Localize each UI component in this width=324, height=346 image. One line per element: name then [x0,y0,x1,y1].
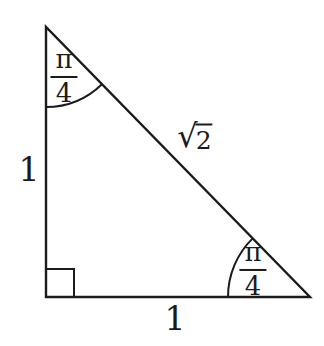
radical-sign: √ [177,120,197,152]
bottom-right-angle-denominator: 4 [239,271,266,300]
triangle-diagram: 1 1 √ 2 π 4 π 4 [0,0,324,346]
bottom-side-length-label: 1 [165,302,186,335]
left-side-length-label: 1 [19,153,40,186]
top-angle-denominator: 4 [50,78,77,107]
radicand: 2 [196,124,213,153]
hypotenuse-length-label: √ 2 [177,120,212,153]
right-angle-marker-icon [46,269,74,297]
bottom-right-angle-label: π 4 [239,239,266,299]
top-angle-numerator: π [50,46,77,78]
triangle-geometry [0,0,324,346]
top-angle-label: π 4 [50,46,77,106]
triangle-outline [46,27,310,297]
bottom-right-angle-numerator: π [239,239,266,271]
